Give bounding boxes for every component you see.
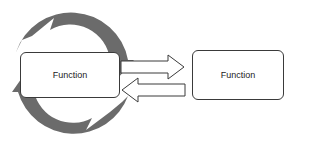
arrow-right-icon <box>121 55 184 79</box>
function-box-right-label: Function <box>221 70 256 80</box>
function-box-left: Function <box>20 52 120 98</box>
function-box-left-label: Function <box>53 70 88 80</box>
arrow-left-icon <box>122 78 185 102</box>
function-box-right: Function <box>192 50 284 100</box>
